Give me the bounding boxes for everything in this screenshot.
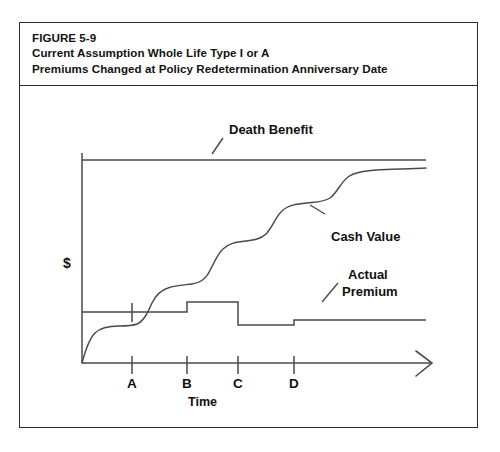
x-axis-label: Time bbox=[188, 395, 217, 409]
cash-value-label: Cash Value bbox=[331, 229, 400, 244]
x-tick-label-d: D bbox=[289, 376, 299, 391]
x-tick-label-b: B bbox=[182, 376, 192, 391]
figure-frame: FIGURE 5-9 Current Assumption Whole Life… bbox=[19, 22, 478, 428]
chart-svg bbox=[20, 86, 476, 426]
actual-premium-label-line1: Actual bbox=[348, 267, 388, 282]
figure-container: FIGURE 5-9 Current Assumption Whole Life… bbox=[0, 0, 500, 452]
cash-value-leader-line bbox=[310, 205, 325, 214]
actual-premium-step-line bbox=[82, 302, 426, 325]
figure-title-line-3: Premiums Changed at Policy Redeterminati… bbox=[32, 61, 477, 76]
cash-value-curve bbox=[82, 168, 426, 363]
x-tick-label-a: A bbox=[127, 376, 137, 391]
death-benefit-label: Death Benefit bbox=[229, 122, 313, 137]
death-benefit-leader-line bbox=[212, 138, 223, 154]
y-axis-label: $ bbox=[63, 255, 71, 271]
actual-premium-leader-line bbox=[322, 283, 338, 302]
figure-title-block: FIGURE 5-9 Current Assumption Whole Life… bbox=[20, 23, 477, 86]
x-tick-label-c: C bbox=[233, 376, 243, 391]
chart-plot-area: Death Benefit Cash Value Actual Premium … bbox=[20, 86, 477, 427]
actual-premium-label-line2: Premium bbox=[342, 284, 398, 299]
figure-title-line-2: Current Assumption Whole Life Type I or … bbox=[32, 45, 477, 60]
figure-number: FIGURE 5-9 bbox=[32, 30, 477, 45]
